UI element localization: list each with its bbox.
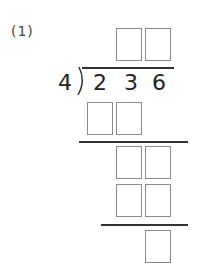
product2-box-2[interactable] (145, 184, 171, 217)
product1-box-2[interactable] (116, 102, 142, 135)
remainder-box[interactable] (145, 230, 171, 263)
difference-box-2[interactable] (145, 146, 171, 179)
divisor: 4 (58, 72, 72, 94)
division-bar (82, 67, 174, 69)
quotient-box-tens[interactable] (116, 28, 142, 61)
product1-box-1[interactable] (87, 102, 113, 135)
division-bracket (77, 66, 85, 96)
difference-box-1[interactable] (116, 146, 142, 179)
subtraction-line-2 (101, 224, 188, 226)
product2-box-1[interactable] (116, 184, 142, 217)
quotient-box-ones[interactable] (145, 28, 171, 61)
dividend-digit-1: 2 (93, 72, 107, 94)
subtraction-line-1 (79, 141, 188, 143)
problem-label: (1) (11, 23, 34, 39)
dividend-digit-3: 6 (152, 72, 166, 94)
dividend-digit-2: 3 (124, 72, 138, 94)
